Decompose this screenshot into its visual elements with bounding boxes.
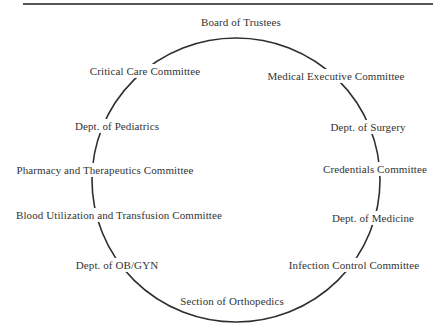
circle-label-dept-of-obgyn: Dept. of OB/GYN [73,258,161,272]
circle-label-dept-of-medicine: Dept. of Medicine [329,211,417,225]
circle-label-medical-executive-committee: Medical Executive Committee [264,69,407,83]
circle-label-board-of-trustees: Board of Trustees [198,15,284,29]
circle-label-infection-control-committee: Infection Control Committee [286,258,422,272]
circle-label-critical-care-committee: Critical Care Committee [87,64,203,78]
circle-label-dept-of-surgery: Dept. of Surgery [327,120,408,134]
circle-label-dept-of-pediatrics: Dept. of Pediatrics [72,119,162,133]
document-page: Board of Trustees Medical Executive Comm… [0,0,444,335]
circle-label-section-of-orthopedics: Section of Orthopedics [177,294,287,308]
circle-label-credentials-committee: Credentials Committee [320,162,430,176]
circle-label-pharmacy-therapeutics: Pharmacy and Therapeutics Committee [13,163,196,177]
circle-label-blood-utilization-committee: Blood Utilization and Transfusion Commit… [13,208,225,222]
